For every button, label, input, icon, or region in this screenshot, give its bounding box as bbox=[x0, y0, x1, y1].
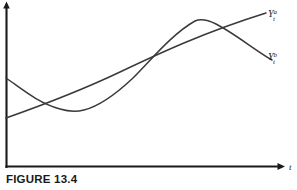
curve-y-t-b bbox=[6, 20, 272, 111]
series-label-y-t-a: Yat bbox=[268, 8, 278, 23]
series-label-y-t-b-sub: t bbox=[273, 58, 276, 66]
caption-bar: FIGURE 13.4 bbox=[6, 171, 291, 189]
figure-caption: FIGURE 13.4 bbox=[6, 171, 291, 187]
figure-plot: t Yat Ybt bbox=[0, 0, 297, 190]
figure-container: t Yat Ybt FIGURE 13.4 bbox=[0, 0, 297, 190]
x-axis-arrowhead bbox=[278, 163, 286, 170]
y-axis-arrowhead bbox=[3, 2, 10, 9]
series-label-y-t-a-sub: t bbox=[273, 15, 276, 23]
series-label-y-t-b: Ybt bbox=[268, 51, 278, 66]
curve-y-t-a bbox=[6, 13, 266, 118]
